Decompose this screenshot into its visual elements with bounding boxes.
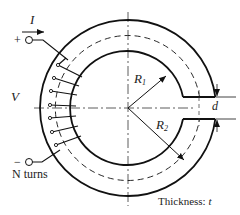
windings <box>50 58 82 145</box>
centerlines <box>34 12 196 206</box>
terminal-minus <box>26 159 33 166</box>
plus-label: + <box>14 34 21 46</box>
r2-subscript: 2 <box>164 124 168 133</box>
lead-wires <box>32 40 68 162</box>
r1-label: R1 <box>134 72 146 87</box>
thickness-text: Thickness: <box>158 195 208 207</box>
r2-arrow <box>128 108 184 160</box>
r1-subscript: 1 <box>142 78 146 87</box>
turns-label: N turns <box>12 168 48 180</box>
voltage-label: V <box>11 90 19 103</box>
r2-symbol: R <box>156 117 164 132</box>
terminal-plus <box>26 37 33 44</box>
current-label: I <box>30 13 34 26</box>
thickness-variable: t <box>208 195 211 207</box>
gap-dimension <box>216 84 236 132</box>
thickness-label: Thickness: t <box>158 196 211 207</box>
r2-label: R2 <box>156 118 168 133</box>
toroid-diagram <box>0 0 240 215</box>
r1-symbol: R <box>134 71 142 86</box>
gap-label: d <box>212 100 218 112</box>
